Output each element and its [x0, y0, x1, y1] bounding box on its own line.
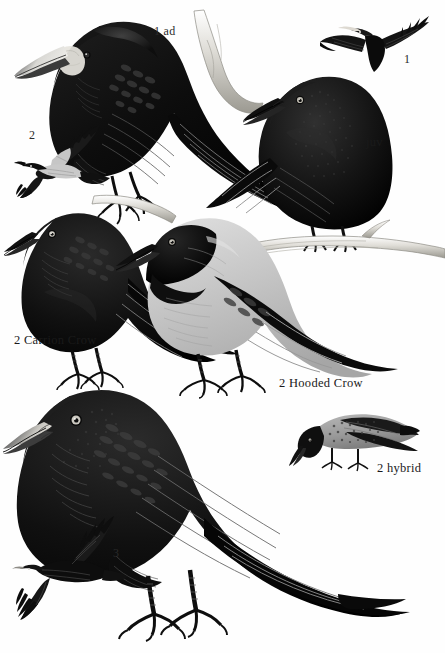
label-rook-juvenile-number: 3: [113, 546, 119, 561]
label-crow-juvenile: 1 juv: [356, 135, 383, 150]
label-hooded-crow: 2 Hooded Crow: [279, 376, 363, 391]
hooded-flight-body: [14, 126, 106, 198]
label-hooded-flight-number: 2: [29, 128, 35, 143]
label-rook-ad: 1 ad: [154, 24, 176, 39]
rook-juv-flight-body: [12, 516, 128, 620]
bird-plate-illustration: 1 ad 1 1 juv 2 2 Carrion Crow 2 Hooded C…: [0, 0, 445, 653]
figure-hooded-crow-adult: [110, 188, 410, 398]
label-carrion-crow: 2 Carrion Crow: [14, 333, 97, 348]
label-rook-flight-number: 1: [404, 52, 410, 67]
figure-rook-juvenile-flight: [16, 512, 128, 620]
label-hybrid: 2 hybrid: [377, 461, 421, 476]
hooded-crow-body: [116, 218, 398, 377]
